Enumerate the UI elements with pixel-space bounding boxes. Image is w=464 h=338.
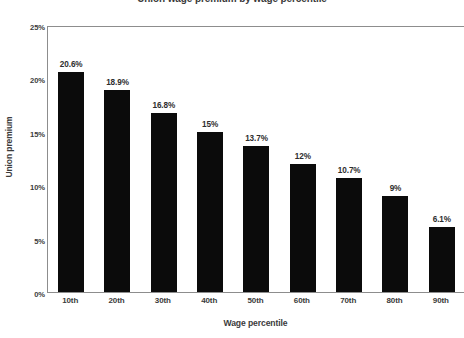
bar-value-label-10th: 20.6% [60, 60, 83, 69]
bar-70th[interactable] [336, 178, 362, 292]
bar-value-label-60th: 12% [295, 152, 311, 161]
y-axis-tick-5%: 5% [5, 236, 45, 245]
bar-20th[interactable] [104, 90, 130, 292]
bar-group-90th: 6.1% [419, 27, 464, 292]
x-axis-tick-70th: 70th [340, 296, 356, 305]
union-wage-premium-bar-chart: Union wage premium by wage percentile Un… [0, 0, 464, 338]
bar-group-60th: 12% [280, 27, 326, 292]
y-axis-tick-20%: 20% [5, 76, 45, 85]
plot-area: 0%5%10%15%20%25% 20.6%18.9%16.8%15%13.7%… [47, 26, 464, 293]
chart-title: Union wage premium by wage percentile [0, 0, 464, 4]
bar-group-20th: 18.9% [94, 27, 140, 292]
x-axis-tick-30th: 30th [155, 296, 171, 305]
x-axis-tick-labels: 10th20th30th40th50th60th70th80th90th [47, 296, 464, 310]
bar-60th[interactable] [290, 164, 316, 292]
bar-group-40th: 15% [187, 27, 233, 292]
bar-group-50th: 13.7% [233, 27, 279, 292]
x-axis-tick-10th: 10th [62, 296, 78, 305]
bar-group-30th: 16.8% [141, 27, 187, 292]
x-axis-tick-40th: 40th [201, 296, 217, 305]
bar-value-label-20th: 18.9% [106, 78, 129, 87]
bars-layer: 20.6%18.9%16.8%15%13.7%12%10.7%9%6.1% [48, 27, 464, 292]
y-axis-tick-25%: 25% [5, 23, 45, 32]
y-axis-title: Union premium [2, 0, 16, 293]
y-axis-tick-0%: 0% [5, 290, 45, 299]
y-axis-title-label: Union premium [4, 116, 14, 177]
bar-10th[interactable] [58, 72, 84, 292]
bar-90th[interactable] [429, 227, 455, 292]
bar-value-label-50th: 13.7% [245, 134, 268, 143]
x-axis-tick-50th: 50th [247, 296, 263, 305]
bar-group-70th: 10.7% [326, 27, 372, 292]
bar-group-80th: 9% [372, 27, 418, 292]
bar-value-label-80th: 9% [390, 184, 402, 193]
bar-40th[interactable] [197, 132, 223, 292]
bar-group-10th: 20.6% [48, 27, 94, 292]
bar-value-label-70th: 10.7% [338, 166, 361, 175]
x-axis-tick-20th: 20th [108, 296, 124, 305]
bar-30th[interactable] [151, 113, 177, 292]
bar-value-label-90th: 6.1% [433, 215, 451, 224]
y-axis-tick-10%: 10% [5, 183, 45, 192]
x-axis-tick-80th: 80th [386, 296, 402, 305]
bar-50th[interactable] [243, 146, 269, 292]
y-axis-tick-15%: 15% [5, 129, 45, 138]
bar-value-label-40th: 15% [202, 120, 218, 129]
bar-80th[interactable] [382, 196, 408, 292]
x-axis-tick-90th: 90th [433, 296, 449, 305]
x-axis-tick-60th: 60th [294, 296, 310, 305]
x-axis-title: Wage percentile [47, 318, 464, 328]
bar-value-label-30th: 16.8% [152, 101, 175, 110]
